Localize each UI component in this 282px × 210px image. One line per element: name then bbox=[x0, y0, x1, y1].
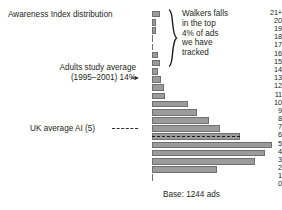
callout-line-1: in the top bbox=[182, 19, 228, 29]
axis-tick-label: 0 bbox=[136, 180, 282, 188]
callout-line-0: Walkers falls bbox=[182, 9, 228, 19]
curly-brace-icon bbox=[168, 9, 178, 67]
axis-tick-label: 1 bbox=[136, 172, 282, 180]
callout-line-4: tracked bbox=[182, 48, 228, 58]
chart-row: 0 bbox=[0, 182, 282, 190]
uk-average-dashed-line bbox=[152, 136, 240, 137]
awareness-index-chart-figure: Awareness Index distribution Adults stud… bbox=[0, 0, 282, 210]
bar-chart-plot-area: 21+20191817161514131211109876543210 bbox=[0, 0, 282, 190]
callout-line-2: 4% of ads bbox=[182, 29, 228, 39]
walkers-callout-text: Walkers falls in the top 4% of ads we ha… bbox=[182, 9, 228, 58]
callout-line-3: we have bbox=[182, 38, 228, 48]
base-note: Base: 1244 ads bbox=[163, 190, 220, 200]
